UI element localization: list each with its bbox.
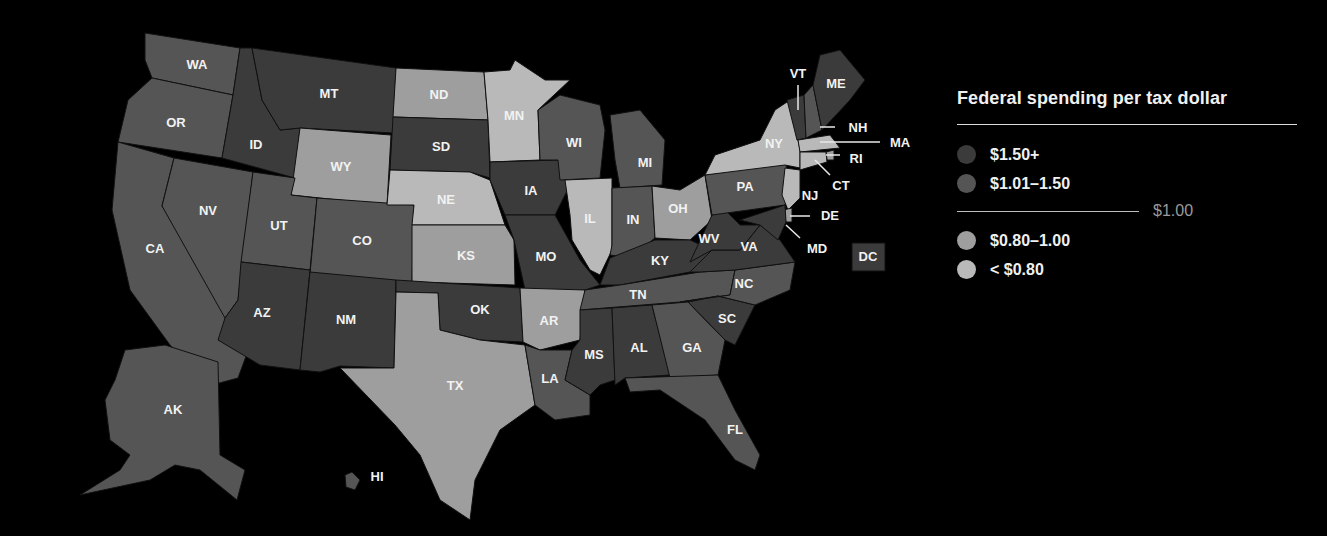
label-LA: LA (541, 371, 559, 386)
label-HI: HI (371, 469, 384, 484)
label-DC: DC (859, 249, 878, 264)
legend-label: $1.50+ (990, 146, 1039, 164)
label-TN: TN (629, 287, 646, 302)
label-OH: OH (668, 201, 688, 216)
label-CT: CT (832, 178, 849, 193)
label-DE: DE (821, 208, 839, 223)
label-TX: TX (447, 378, 464, 393)
label-UT: UT (270, 218, 287, 233)
label-NJ: NJ (802, 188, 819, 203)
label-MD: MD (807, 241, 827, 256)
label-NV: NV (199, 203, 217, 218)
label-VA: VA (740, 239, 758, 254)
legend-item-1-01-1-50: $1.01–1.50 (957, 169, 1297, 198)
label-NM: NM (336, 312, 356, 327)
label-IL: IL (584, 211, 596, 226)
label-VT: VT (790, 66, 807, 81)
label-NE: NE (437, 192, 455, 207)
state-HI[interactable] (345, 472, 360, 490)
label-MT: MT (320, 86, 339, 101)
state-NY[interactable] (705, 100, 800, 175)
legend-item-0-80-1-00: $0.80–1.00 (957, 226, 1297, 255)
legend-title-rule (957, 124, 1297, 125)
label-NH: NH (849, 120, 868, 135)
label-MS: MS (584, 347, 604, 362)
label-CO: CO (352, 233, 372, 248)
label-AK: AK (164, 402, 183, 417)
label-KY: KY (651, 253, 669, 268)
leader-MD (786, 225, 800, 238)
label-MN: MN (504, 108, 524, 123)
label-MO: MO (536, 249, 557, 264)
legend-swatch-icon (957, 145, 976, 164)
label-AZ: AZ (253, 305, 270, 320)
label-IA: IA (525, 183, 539, 198)
label-OR: OR (166, 115, 186, 130)
label-MI: MI (638, 155, 652, 170)
label-SD: SD (432, 139, 450, 154)
label-RI: RI (850, 151, 863, 166)
legend-label: $1.01–1.50 (990, 175, 1070, 193)
label-WV: WV (699, 231, 720, 246)
state-MI[interactable] (610, 110, 665, 188)
threshold-label: $1.00 (1153, 202, 1193, 220)
legend: Federal spending per tax dollar $1.50+ $… (957, 88, 1297, 284)
label-ND: ND (430, 87, 449, 102)
label-AR: AR (540, 313, 559, 328)
legend-item-1-50-plus: $1.50+ (957, 140, 1297, 169)
label-ME: ME (826, 76, 846, 91)
label-WY: WY (331, 159, 352, 174)
legend-swatch-icon (957, 231, 976, 250)
threshold-line (957, 211, 1139, 212)
legend-swatch-icon (957, 260, 976, 279)
legend-threshold-divider: $1.00 (957, 198, 1297, 224)
label-AL: AL (630, 340, 647, 355)
legend-swatch-icon (957, 174, 976, 193)
legend-label: $0.80–1.00 (990, 232, 1070, 250)
label-WA: WA (187, 57, 209, 72)
label-ID: ID (250, 137, 263, 152)
label-FL: FL (727, 422, 743, 437)
label-MA: MA (890, 135, 911, 150)
label-IN: IN (627, 212, 640, 227)
us-choropleth-map: WA OR CA NV ID MT WY UT CO AZ NM ND SD N… (0, 0, 940, 536)
label-GA: GA (682, 340, 702, 355)
label-NY: NY (765, 136, 783, 151)
legend-item-under-0-80: < $0.80 (957, 255, 1297, 284)
label-NC: NC (735, 276, 754, 291)
label-WI: WI (566, 135, 582, 150)
label-SC: SC (718, 311, 737, 326)
legend-title: Federal spending per tax dollar (957, 88, 1297, 109)
label-CA: CA (146, 241, 165, 256)
label-KS: KS (457, 248, 475, 263)
legend-label: < $0.80 (990, 261, 1044, 279)
label-PA: PA (736, 179, 754, 194)
label-OK: OK (470, 302, 490, 317)
